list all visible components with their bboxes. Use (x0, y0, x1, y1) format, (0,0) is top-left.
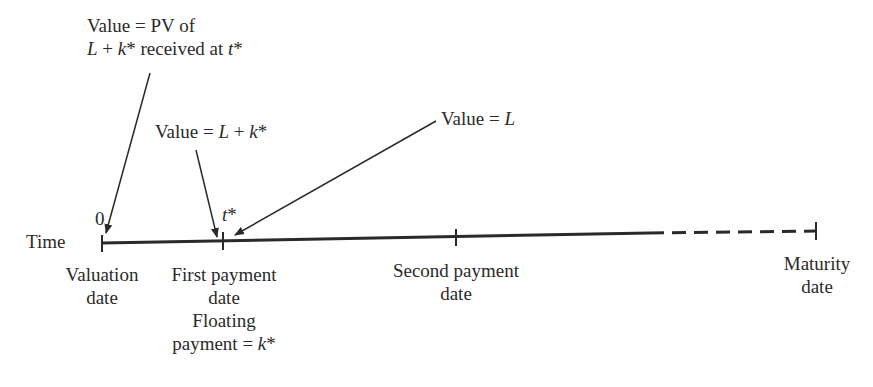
pv-annotation: Value = PV of L + k* received at t* (87, 14, 243, 60)
valuation-date-label: Valuation date (52, 263, 152, 309)
maturity-date-label: Maturity date (769, 252, 865, 298)
tick-label-tstar: t* (222, 203, 237, 226)
pv-line1: Value = PV of (87, 14, 243, 37)
arrow-first-value (196, 150, 217, 237)
axis-label: Time (26, 230, 65, 253)
timeline-solid (102, 233, 650, 243)
first-value-annotation: Value = L + k* (155, 120, 267, 143)
second-payment-label: Second payment date (371, 259, 541, 305)
tick-label-zero: 0 (95, 207, 105, 230)
first-payment-label: First payment date Floating payment = k* (156, 263, 292, 355)
timeline-dashed (650, 231, 816, 233)
arrow-pv (106, 73, 150, 233)
pv-line2: L + k* received at t* (87, 37, 243, 60)
after-value-annotation: Value = L (441, 107, 515, 130)
